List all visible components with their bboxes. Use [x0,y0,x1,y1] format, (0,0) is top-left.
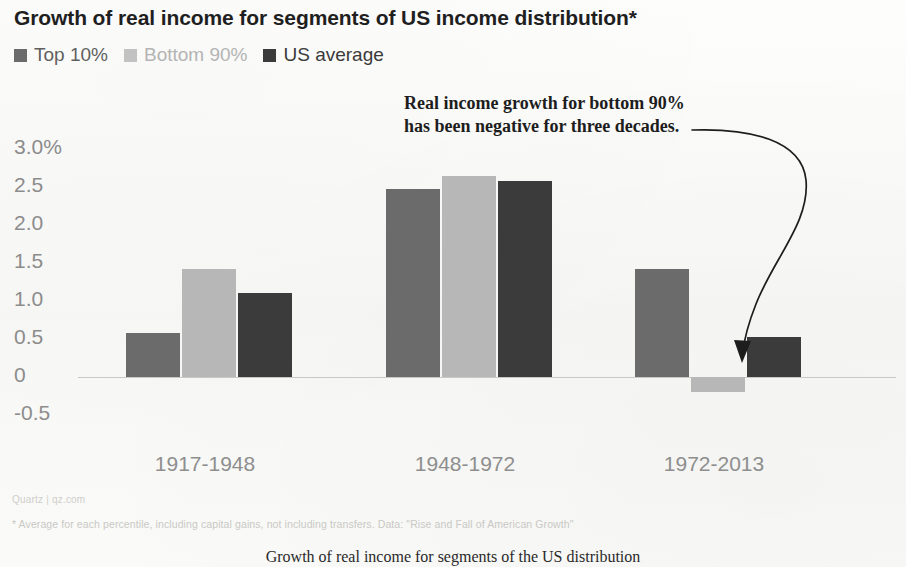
footer-source: Quartz | qz.com [12,494,85,505]
bar-1972-2013-us-average[interactable] [747,337,801,377]
bar-1948-1972-top-10-[interactable] [386,189,440,377]
x-tick-label: 1972-2013 [624,452,804,476]
annotation-line-1: Real income growth for bottom 90% [404,92,734,115]
chart-screenshot: Growth of real income for segments of US… [0,0,906,567]
y-tick-label: 1.5 [14,249,43,273]
bottom-caption: Growth of real income for segments of th… [0,548,906,566]
annotation-line-2: has been negative for three decades. [404,115,734,138]
plot-area: 3.0%2.52.01.51.00.50-0.5 1917-19481948-1… [0,0,906,567]
y-tick-label: -0.5 [14,401,50,425]
bar-1917-1948-bottom-90-[interactable] [182,269,236,377]
y-tick-label: 0.5 [14,325,43,349]
x-tick-label: 1948-1972 [375,452,555,476]
x-tick-label: 1917-1948 [115,452,295,476]
bar-1917-1948-top-10-[interactable] [126,333,180,377]
bar-1972-2013-bottom-90-[interactable] [691,377,745,392]
bar-1948-1972-bottom-90-[interactable] [442,176,496,377]
y-tick-label: 2.0 [14,211,43,235]
y-tick-label: 1.0 [14,287,43,311]
bar-1972-2013-top-10-[interactable] [635,269,689,377]
bar-1917-1948-us-average[interactable] [238,293,292,377]
bar-1948-1972-us-average[interactable] [498,181,552,377]
y-tick-label: 3.0% [14,135,62,159]
y-tick-label: 2.5 [14,173,43,197]
zero-baseline [78,377,896,378]
annotation-callout: Real income growth for bottom 90% has be… [404,92,734,137]
footer-note: * Average for each percentile, including… [12,518,574,530]
y-tick-label: 0 [14,363,26,387]
